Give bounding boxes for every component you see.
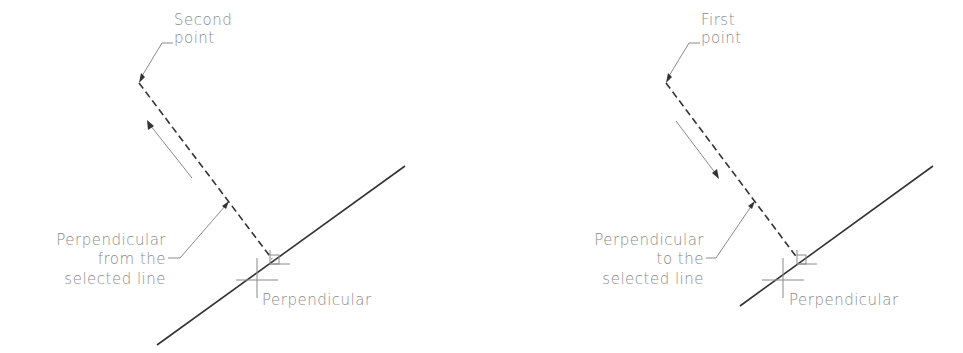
point-label-line2: point <box>701 29 742 47</box>
direction-arrow-icon <box>147 120 192 178</box>
leader-label-line1: Perpendicular <box>594 231 704 249</box>
snap-label: Perpendicular <box>262 291 372 309</box>
point-label-line1: First <box>701 11 735 29</box>
point-label-line1: Second <box>174 11 232 29</box>
snap-label: Perpendicular <box>789 291 899 309</box>
left-panel: Second point Perpendicular from the sele… <box>56 11 405 345</box>
leader-label-line2: from the <box>98 250 166 268</box>
right-panel: First point Perpendicular to the selecte… <box>594 11 933 309</box>
point-leader <box>666 43 700 83</box>
leader-label-line1: Perpendicular <box>56 231 166 249</box>
perpendicular-diagram: Second point Perpendicular from the sele… <box>0 0 963 353</box>
perpendicular-leader <box>168 201 229 258</box>
selected-line <box>740 166 933 306</box>
point-label-line2: point <box>174 29 215 47</box>
perpendicular-leader <box>706 201 755 258</box>
leader-label-line2: to the <box>657 250 704 268</box>
leader-label-line3: selected line <box>64 270 166 288</box>
selected-line <box>157 166 405 345</box>
point-leader <box>139 43 173 83</box>
leader-label-line3: selected line <box>602 270 704 288</box>
direction-arrow-icon <box>676 121 719 179</box>
